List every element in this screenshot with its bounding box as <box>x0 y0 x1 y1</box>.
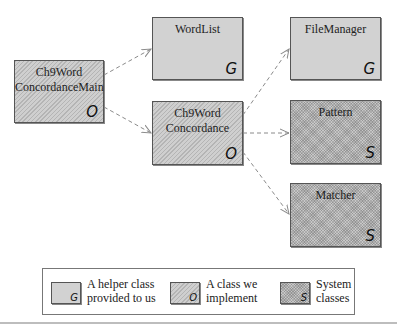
class-type-tag: S <box>365 144 375 162</box>
class-box-ch9wordconcordancemain: Ch9Word ConcordanceMain O <box>14 60 104 123</box>
legend-swatch-helper: G <box>51 282 81 304</box>
class-name: Ch9Word ConcordanceMain <box>15 65 103 95</box>
class-type-tag: S <box>365 227 375 245</box>
legend-swatch-system: S <box>280 282 310 304</box>
legend-text: A helper class provided to us <box>87 277 156 305</box>
bottom-divider <box>0 322 397 324</box>
class-type-tag: O <box>86 103 98 121</box>
class-name: Ch9Word Concordance <box>153 106 242 136</box>
class-type-tag: O <box>189 292 197 303</box>
class-name: Matcher <box>291 188 380 203</box>
edge-main-to-concordance <box>104 107 151 133</box>
class-type-tag: O <box>225 145 237 163</box>
class-name: WordList <box>153 22 242 37</box>
edge-main-to-wordlist <box>104 49 151 75</box>
edge-concordance-to-matcher <box>243 152 289 214</box>
class-type-tag: G <box>363 60 375 78</box>
class-box-matcher: Matcher S <box>290 183 381 247</box>
class-box-pattern: Pattern S <box>290 100 381 164</box>
legend: G A helper class provided to us O A clas… <box>42 268 355 315</box>
legend-swatch-implement: O <box>170 282 200 304</box>
class-type-tag: G <box>70 292 78 303</box>
class-box-filemanager: FileManager G <box>290 17 381 80</box>
legend-text: A class we implement <box>206 277 257 305</box>
class-name: Pattern <box>291 105 380 120</box>
class-box-ch9wordconcordance: Ch9Word Concordance O <box>152 101 243 165</box>
class-type-tag: S <box>301 292 307 303</box>
edge-concordance-to-filemanager <box>243 49 289 115</box>
class-box-wordlist: WordList G <box>152 17 243 80</box>
class-type-tag: G <box>225 60 237 78</box>
legend-text: System classes <box>316 277 351 305</box>
class-name: FileManager <box>291 22 380 37</box>
